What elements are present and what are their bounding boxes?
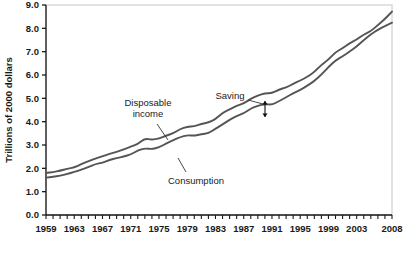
chart-container: 0.01.02.03.04.05.06.07.08.09.0 195919631…	[0, 0, 409, 255]
x-tick-label: 1987	[233, 223, 254, 234]
y-axis-title: Trillions of 2000 dollars	[3, 57, 14, 163]
x-tick-label: 2008	[381, 223, 402, 234]
annotation-label-disposable-income: Disposable	[125, 97, 172, 108]
x-tick-label: 1975	[148, 223, 170, 234]
x-tick-label: 1959	[35, 223, 56, 234]
y-tick-label: 9.0	[26, 0, 39, 10]
savings-consumption-line-chart: 0.01.02.03.04.05.06.07.08.09.0 195919631…	[0, 0, 409, 255]
y-tick-label: 4.0	[26, 116, 39, 127]
y-tick-label: 6.0	[26, 69, 39, 80]
annotation-label-disposable-income-line2: income	[133, 108, 164, 119]
annotation-label-saving: Saving	[215, 90, 244, 101]
x-tick-label: 1991	[261, 223, 283, 234]
y-tick-label: 7.0	[26, 46, 39, 57]
x-tick-label: 1979	[177, 223, 198, 234]
x-tick-label: 1983	[205, 223, 226, 234]
x-tick-label: 1995	[290, 223, 312, 234]
x-tick-label: 2003	[346, 223, 367, 234]
y-tick-label: 8.0	[26, 23, 39, 34]
y-tick-label: 0.0	[26, 209, 39, 220]
x-tick-label: 1967	[92, 223, 113, 234]
y-tick-label: 5.0	[26, 93, 39, 104]
x-tick-label: 1963	[64, 223, 85, 234]
annotation-label-consumption: Consumption	[168, 175, 224, 186]
x-tick-label: 1999	[318, 223, 339, 234]
y-tick-label: 3.0	[26, 139, 39, 150]
y-tick-label: 2.0	[26, 163, 39, 174]
y-tick-label: 1.0	[26, 186, 39, 197]
x-tick-label: 1971	[120, 223, 142, 234]
